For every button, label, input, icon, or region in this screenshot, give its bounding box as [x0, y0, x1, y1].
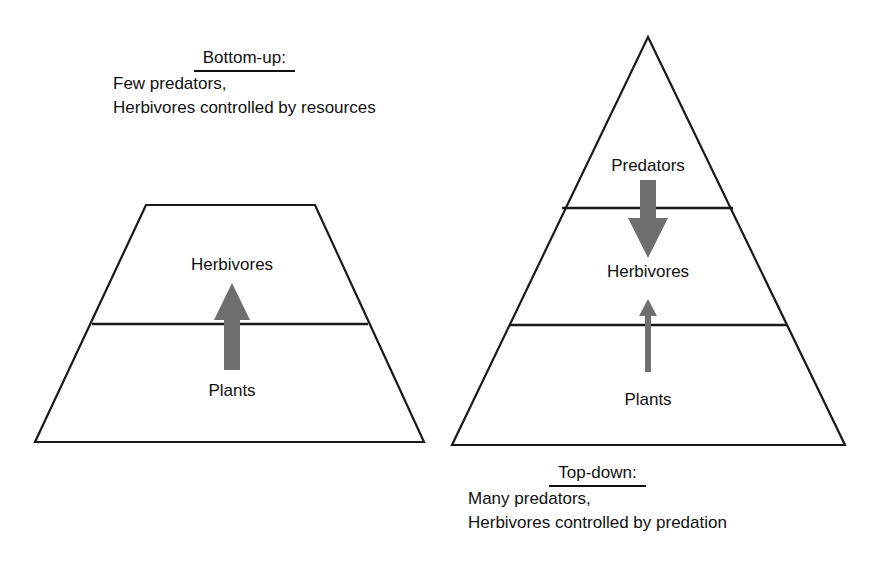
left-caption-heading: Bottom-up: — [113, 47, 376, 72]
left-caption-line-1: Few predators, — [113, 72, 376, 96]
right-caption-heading: Top-down: — [468, 462, 727, 487]
left-tier-label-herbivores: Herbivores — [191, 255, 273, 275]
right-tier-label-herbivores: Herbivores — [607, 262, 689, 282]
left-trapezoid-group — [35, 205, 424, 442]
right-caption-line-2: Herbivores controlled by predation — [468, 511, 727, 535]
right-tier-label-predators: Predators — [611, 156, 685, 176]
right-caption-heading-text: Top-down: — [549, 462, 645, 487]
right-pyramid-group — [452, 37, 845, 445]
right-caption-body: Many predators, Herbivores controlled by… — [468, 487, 727, 535]
left-caption-line-2: Herbivores controlled by resources — [113, 96, 376, 120]
left-caption-heading-text: Bottom-up: — [194, 47, 295, 72]
right-tier-label-plants: Plants — [624, 390, 671, 410]
right-caption: Top-down: Many predators, Herbivores con… — [468, 462, 727, 535]
left-caption: Bottom-up: Few predators, Herbivores con… — [113, 47, 376, 120]
left-tier-label-plants: Plants — [208, 381, 255, 401]
diagram-canvas: Bottom-up: Few predators, Herbivores con… — [0, 0, 875, 575]
left-caption-body: Few predators, Herbivores controlled by … — [113, 72, 376, 120]
right-caption-line-1: Many predators, — [468, 487, 727, 511]
